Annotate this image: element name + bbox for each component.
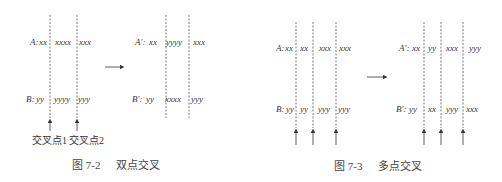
segment: yy <box>428 43 436 53</box>
segment: xx <box>428 104 436 114</box>
segment: xx <box>300 43 308 53</box>
segment: xx <box>285 43 293 53</box>
segment: xxx <box>193 37 205 47</box>
offspring-b-label: B': <box>132 94 142 104</box>
segment: xxx <box>79 37 91 47</box>
segment: yyy <box>78 94 90 104</box>
crossover-point-2-label: 交叉点2 <box>69 135 104 147</box>
chromosome-a-label: A: <box>276 43 285 53</box>
segment: yyyy <box>166 37 182 47</box>
segment: yyy <box>338 104 350 114</box>
segment: yy <box>286 104 294 114</box>
diagram-graphics <box>0 0 502 182</box>
segment: xxx <box>319 43 331 53</box>
segment: yyy <box>318 104 330 114</box>
segment: xxx <box>446 43 458 53</box>
offspring-a-label: A': <box>399 43 409 53</box>
segment: xx <box>39 37 47 47</box>
segment: xx <box>149 37 157 47</box>
segment: xx <box>412 43 420 53</box>
segment: yyyy <box>54 94 70 104</box>
figure-caption-number: 图 7-2 <box>72 159 100 172</box>
chromosome-b-label: B: <box>26 94 35 104</box>
figure-caption-title: 双点交叉 <box>116 159 160 172</box>
figure-caption-title: 多点交叉 <box>378 160 422 173</box>
segment: yy <box>146 94 154 104</box>
segment: yy <box>36 94 44 104</box>
segment: yyy <box>191 94 203 104</box>
crossover-point-1-label: 交叉点1 <box>32 135 67 147</box>
chromosome-a-label: A: <box>30 37 39 47</box>
segment: yyy <box>446 104 458 114</box>
chromosome-b-label: B: <box>276 104 285 114</box>
segment: xxx <box>466 104 478 114</box>
offspring-b-label: B': <box>396 104 406 114</box>
segment: xxxx <box>55 37 71 47</box>
segment: xxx <box>339 43 351 53</box>
segment: yyy <box>469 43 481 53</box>
segment: yy <box>409 104 417 114</box>
segment: yy <box>300 104 308 114</box>
offspring-a-label: A': <box>135 37 145 47</box>
figure-caption-number: 图 7-3 <box>334 160 362 173</box>
segment: xxxx <box>165 94 181 104</box>
